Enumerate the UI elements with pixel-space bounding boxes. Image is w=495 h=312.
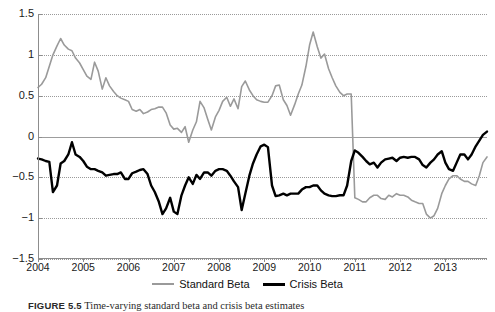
x-axis-tick-label: 2005 (63, 262, 103, 273)
figure-caption-label: FIGURE 5.5 (28, 300, 82, 311)
x-axis-tick-mark (174, 259, 175, 262)
y-axis-tick-label: −1 (0, 212, 34, 223)
x-axis-tick-mark (219, 259, 220, 262)
legend-swatch-crisis-beta (263, 283, 285, 286)
series-line-standard-beta (38, 32, 487, 218)
series-line-crisis-beta (38, 132, 487, 214)
y-axis-tick-mark (38, 96, 42, 97)
y-axis-tick-mark (38, 218, 42, 219)
legend-entry-crisis-beta: Crisis Beta (263, 278, 343, 290)
legend-swatch-standard-beta (152, 283, 174, 285)
y-axis-tick-label: 0.5 (0, 90, 34, 101)
chart-legend: Standard Beta Crisis Beta (0, 278, 495, 290)
y-axis-tick-mark (38, 137, 42, 138)
x-axis-tick-mark (310, 259, 311, 262)
x-axis-tick-mark (129, 259, 130, 262)
x-axis-tick-mark (355, 259, 356, 262)
y-axis-tick-mark (38, 14, 42, 15)
x-axis-tick-mark (38, 259, 39, 262)
x-axis-tick-mark (400, 259, 401, 262)
y-axis-tick-label: 1 (0, 49, 34, 60)
x-axis-tick-label: 2006 (109, 262, 149, 273)
x-axis-tick-label: 2009 (244, 262, 284, 273)
x-axis-tick-label: 2007 (154, 262, 194, 273)
y-axis-tick-label: 0 (0, 131, 34, 142)
y-axis-tick-label: −0.5 (0, 171, 34, 182)
x-axis-tick-mark (445, 259, 446, 262)
figure-caption: FIGURE 5.5 Time-varying standard beta an… (28, 300, 488, 312)
x-axis-line (38, 258, 487, 259)
x-axis-tick-label: 2008 (199, 262, 239, 273)
x-axis-tick-label: 2012 (380, 262, 420, 273)
legend-label-crisis-beta: Crisis Beta (290, 278, 343, 290)
y-axis-tick-mark (38, 177, 42, 178)
x-axis-tick-label: 2013 (425, 262, 465, 273)
y-axis-tick-mark (38, 55, 42, 56)
legend-label-standard-beta: Standard Beta (179, 278, 249, 290)
legend-entry-standard-beta: Standard Beta (152, 278, 249, 290)
x-axis-tick-mark (83, 259, 84, 262)
x-axis-tick-label: 2004 (18, 262, 58, 273)
chart-plot-area (38, 14, 487, 259)
gridline--1_5 (38, 259, 487, 260)
x-axis-tick-label: 2011 (335, 262, 375, 273)
figure-caption-text: Time-varying standard beta and crisis be… (84, 300, 304, 311)
y-axis-tick-label: 1.5 (0, 8, 34, 19)
series-lines-group (38, 14, 487, 259)
x-axis-tick-mark (264, 259, 265, 262)
x-axis-tick-label: 2010 (290, 262, 330, 273)
